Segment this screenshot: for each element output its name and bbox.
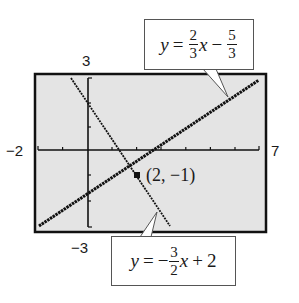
eq1-var: y — [160, 34, 168, 56]
xmax-label: 7 — [271, 143, 279, 158]
eq1-x: x — [199, 34, 207, 56]
eq2-negative-sign: − — [158, 250, 169, 272]
intersection-point-label: (2, −1) — [146, 166, 195, 184]
eq2-var: y — [130, 250, 138, 272]
eq2-equals: = — [143, 250, 154, 272]
eq2-op: + — [192, 250, 203, 272]
intersection-point-marker — [134, 172, 140, 178]
equation-callout-line1: y = 2 3 x − 5 3 — [144, 19, 254, 70]
eq1-equals: = — [173, 34, 184, 56]
eq2-slope-fraction: 3 2 — [169, 245, 179, 278]
eq1-slope-fraction: 2 3 — [189, 28, 199, 61]
xmin-label: −2 — [6, 143, 23, 158]
eq1-intercept-fraction: 5 3 — [227, 28, 237, 61]
ymax-label: 3 — [82, 53, 90, 68]
ymin-label: −3 — [71, 240, 88, 255]
eq2-x: x — [180, 250, 188, 272]
equation-callout-line2: y = − 3 2 x + 2 — [111, 236, 236, 286]
eq1-op: − — [211, 34, 222, 56]
eq2-constant: 2 — [207, 250, 217, 272]
